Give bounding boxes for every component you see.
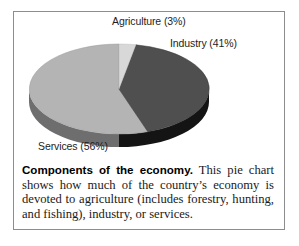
pie-top-faces [29, 44, 209, 134]
pie-chart-area: Agriculture (3%) Industry (41%) Services… [0, 0, 299, 160]
pie-label-services: Services (56%) [38, 140, 108, 152]
figure-caption: Components of the economy. This pie char… [22, 163, 274, 221]
pie-label-agriculture: Agriculture (3%) [112, 15, 186, 27]
caption-title: Components of the economy. [22, 163, 193, 176]
figure-panel: Agriculture (3%) Industry (41%) Services… [0, 0, 299, 246]
pie-label-industry: Industry (41%) [170, 37, 237, 49]
